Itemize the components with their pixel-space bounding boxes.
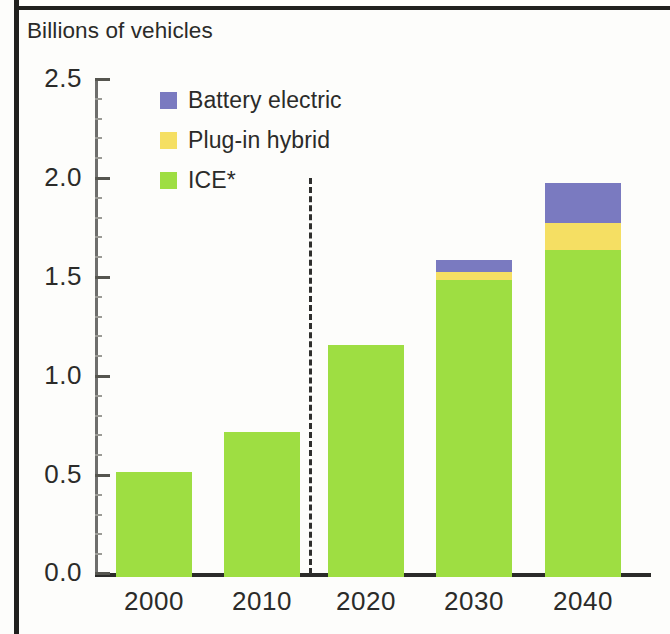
y-minor-tick <box>95 355 102 357</box>
chart-legend: Battery electric Plug-in hybrid ICE* <box>160 82 342 202</box>
stacked-bar[interactable] <box>224 432 300 577</box>
stacked-bar[interactable] <box>436 260 512 577</box>
stacked-bar[interactable] <box>116 472 192 577</box>
x-axis-label-2040: 2040 <box>545 586 621 617</box>
bar-segment-battery-electric <box>436 260 512 272</box>
y-axis-label-1-5: 1.5 <box>12 261 82 292</box>
bar-segment-battery-electric <box>545 183 621 223</box>
y-tick-1-0 <box>95 375 110 378</box>
bar-segment-ice <box>436 280 512 577</box>
bar-segment-plug-in-hybrid <box>545 223 621 251</box>
y-tick-0-0 <box>95 572 110 575</box>
y-minor-tick <box>95 236 102 238</box>
y-axis <box>95 78 98 575</box>
y-minor-tick <box>95 395 102 397</box>
y-minor-tick <box>95 197 102 199</box>
y-minor-tick <box>95 454 102 456</box>
x-axis-label-2000: 2000 <box>116 586 192 617</box>
legend-item-plug-in-hybrid[interactable]: Plug-in hybrid <box>160 122 342 158</box>
y-minor-tick <box>95 296 102 298</box>
y-minor-tick <box>95 118 102 120</box>
legend-swatch-ice <box>160 172 177 189</box>
legend-label-ice: ICE* <box>188 167 236 194</box>
chart-figure: Billions of vehicles <box>0 0 670 634</box>
bar-segment-ice <box>224 432 300 577</box>
y-minor-tick <box>95 157 102 159</box>
forecast-divider-line <box>309 178 312 574</box>
legend-item-battery-electric[interactable]: Battery electric <box>160 82 342 118</box>
y-minor-tick <box>95 137 102 139</box>
bar-segment-plug-in-hybrid <box>436 272 512 280</box>
bar-segment-ice <box>116 472 192 577</box>
stacked-bar[interactable] <box>545 183 621 577</box>
y-axis-label-2-0: 2.0 <box>12 162 82 193</box>
legend-label-plug-in-hybrid: Plug-in hybrid <box>188 127 330 154</box>
y-tick-0-5 <box>95 474 110 477</box>
y-minor-tick <box>95 256 102 258</box>
x-axis-label-2030: 2030 <box>436 586 512 617</box>
y-minor-tick <box>95 514 102 516</box>
legend-swatch-plug-in-hybrid <box>160 132 177 149</box>
y-minor-tick <box>95 335 102 337</box>
bar-segment-ice <box>545 250 621 577</box>
y-tick-2-5 <box>95 78 110 81</box>
y-tick-1-5 <box>95 276 110 279</box>
y-axis-label-0-0: 0.0 <box>12 557 82 588</box>
plot-area: 2.5 2.0 1.5 1.0 0.5 0.0 <box>0 0 670 634</box>
y-tick-2-0 <box>95 177 110 180</box>
legend-item-ice[interactable]: ICE* <box>160 162 342 198</box>
y-minor-tick <box>95 553 102 555</box>
y-minor-tick <box>95 494 102 496</box>
y-minor-tick <box>95 533 102 535</box>
y-axis-label-2-5: 2.5 <box>12 63 82 94</box>
y-minor-tick <box>95 316 102 318</box>
y-minor-tick <box>95 217 102 219</box>
y-axis-label-0-5: 0.5 <box>12 459 82 490</box>
stacked-bar[interactable] <box>328 345 404 577</box>
y-minor-tick <box>95 98 102 100</box>
y-minor-tick <box>95 415 102 417</box>
x-axis-label-2020: 2020 <box>328 586 404 617</box>
y-minor-tick <box>95 434 102 436</box>
bar-segment-ice <box>328 345 404 577</box>
y-axis-label-1-0: 1.0 <box>12 360 82 391</box>
legend-label-battery-electric: Battery electric <box>188 87 342 114</box>
x-axis-label-2010: 2010 <box>224 586 300 617</box>
legend-swatch-battery-electric <box>160 92 177 109</box>
